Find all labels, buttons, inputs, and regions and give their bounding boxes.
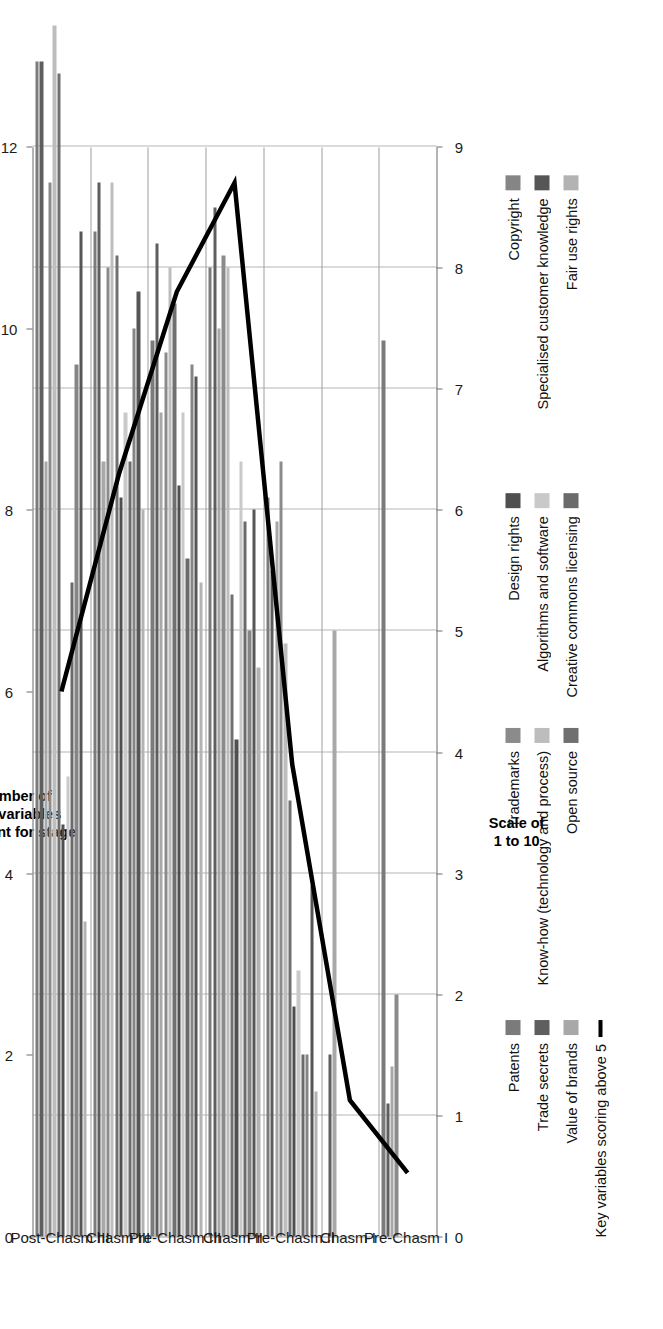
legend-item[interactable]: Know-how (technology and process) (534, 727, 550, 985)
legend-item[interactable]: Creative commons licensing (563, 493, 579, 697)
legend-item-label: Value of brands (563, 1043, 579, 1144)
secondary-axis-tick-label: 6 (0, 684, 20, 701)
legend-item[interactable]: Algorithms and software (534, 493, 550, 697)
primary-axis-tick-label: 3 (450, 865, 468, 882)
secondary-axis-tick (26, 691, 32, 692)
legend-item-label: Copyright (505, 198, 521, 260)
legend-line-swatch (598, 1020, 602, 1037)
legend-item-label: Design rights (505, 516, 521, 601)
plot-area (32, 147, 436, 1237)
legend-item-label: Patents (505, 1043, 521, 1092)
legend-color-swatch (564, 1020, 579, 1035)
primary-axis-tick-label: 9 (450, 139, 468, 156)
line-series-layer (32, 146, 436, 1236)
legend-column: CopyrightSpecialised customer knowledgeF… (505, 175, 592, 409)
legend-item-label: Trade secrets (534, 1043, 550, 1131)
legend-item[interactable]: Value of brands (563, 1020, 579, 1237)
secondary-axis-tick (26, 146, 32, 147)
primary-axis-tick-label: 1 (450, 1107, 468, 1124)
legend-item-label: Creative commons licensing (563, 516, 579, 697)
legend-item[interactable]: Trade secrets (534, 1020, 550, 1237)
secondary-axis-tick (26, 328, 32, 329)
secondary-axis-tick-label: 10 (0, 320, 20, 337)
legend-item-label: Key variables scoring above 5 (592, 1044, 608, 1237)
secondary-axis-tick-label: 12 (0, 139, 20, 156)
legend-color-swatch (564, 727, 579, 742)
legend-color-swatch (535, 493, 550, 508)
primary-axis-tick-label: 8 (450, 260, 468, 277)
legend-item-label: Specialised customer knowledge (534, 198, 550, 409)
legend-color-swatch (564, 175, 579, 190)
legend-color-swatch (535, 727, 550, 742)
legend-color-swatch (506, 175, 521, 190)
chart-page: Number of key variables relevant for sta… (0, 0, 663, 1329)
chart-legend: PatentsTrade secretsValue of brandsKey v… (505, 147, 625, 1237)
legend-item-label: Fair use rights (563, 198, 579, 290)
legend-color-swatch (506, 1020, 521, 1035)
category-label: Post-Chasm III (0, 1229, 119, 1246)
line-series (61, 182, 407, 1172)
legend-color-swatch (506, 727, 521, 742)
secondary-axis-tick-label: 4 (0, 865, 20, 882)
secondary-value-axis: 024681012 (32, 147, 33, 1237)
legend-item-label: Open source (563, 750, 579, 833)
secondary-axis-tick-label: 2 (0, 1047, 20, 1064)
legend-item[interactable]: Design rights (505, 493, 521, 697)
legend-item[interactable]: Key variables scoring above 5 (592, 1020, 608, 1237)
secondary-axis-tick (26, 873, 32, 874)
legend-item[interactable]: Copyright (505, 175, 521, 409)
primary-axis-tick-label: 4 (450, 744, 468, 761)
primary-axis-tick-label: 6 (450, 502, 468, 519)
legend-color-swatch (535, 1020, 550, 1035)
secondary-axis-tick-label: 8 (0, 502, 20, 519)
primary-axis-tick-label: 5 (450, 623, 468, 640)
chart-figure: Number of key variables relevant for sta… (0, 0, 663, 1329)
legend-item[interactable]: Specialised customer knowledge (534, 175, 550, 409)
legend-column: Design rightsAlgorithms and softwareCrea… (505, 493, 592, 697)
legend-item-label: Algorithms and software (534, 516, 550, 672)
legend-item[interactable]: Open source (563, 727, 579, 985)
primary-axis-tick-label: 2 (450, 986, 468, 1003)
legend-color-swatch (564, 493, 579, 508)
legend-color-swatch (506, 493, 521, 508)
secondary-axis-tick (26, 509, 32, 510)
primary-axis-tick-label: 7 (450, 381, 468, 398)
legend-item-label: Know-how (technology and process) (534, 750, 550, 985)
legend-color-swatch (535, 175, 550, 190)
secondary-axis-tick (26, 1054, 32, 1055)
legend-item[interactable]: Patents (505, 1020, 521, 1237)
legend-item-label: Trademarks (505, 750, 521, 827)
legend-item[interactable]: Trademarks (505, 727, 521, 985)
legend-column: PatentsTrade secretsValue of brandsKey v… (505, 1020, 621, 1237)
legend-item[interactable]: Fair use rights (563, 175, 579, 409)
legend-column: TrademarksKnow-how (technology and proce… (505, 727, 592, 985)
